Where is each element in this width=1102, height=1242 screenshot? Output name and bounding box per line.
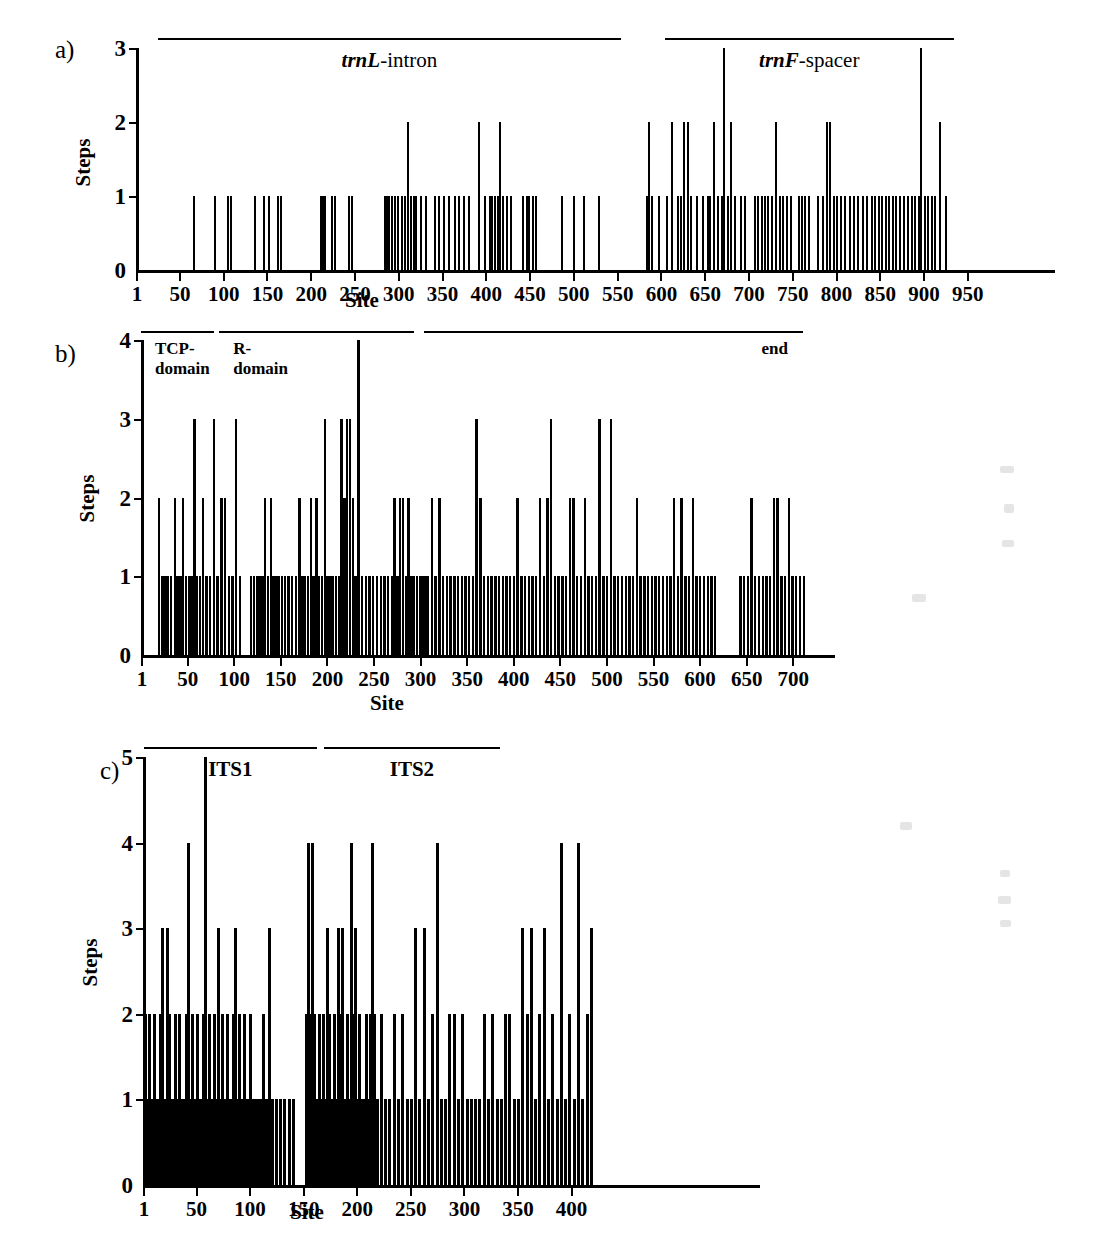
panel-b-x-tick-label: 300	[405, 667, 437, 692]
data-spike	[280, 196, 282, 270]
data-spike	[383, 576, 385, 655]
data-spike	[279, 1099, 282, 1185]
data-spike	[591, 576, 593, 655]
data-spike	[595, 576, 597, 655]
panel-c-x-tick-label: 1	[139, 1197, 150, 1222]
data-spike	[628, 576, 630, 655]
panel-b-x-tick-label: 100	[218, 667, 250, 692]
data-spike	[474, 1099, 477, 1185]
panel-b-y-tick-label: 1	[107, 564, 131, 590]
data-spike	[158, 498, 160, 656]
data-spike	[840, 196, 842, 270]
data-spike	[458, 196, 460, 270]
data-spike	[927, 196, 929, 270]
panel-b-y-tick-label: 4	[107, 328, 131, 354]
data-spike	[438, 498, 440, 656]
data-spike	[871, 196, 873, 270]
panel-a-y-tick-label: 0	[102, 258, 126, 284]
data-spike	[573, 196, 575, 270]
data-spike	[376, 1099, 379, 1185]
panel-c-x-tick	[143, 1188, 145, 1196]
data-spike	[710, 576, 712, 655]
data-spike	[213, 419, 215, 655]
panel-c-x-axis-line	[143, 1185, 760, 1188]
data-spike	[538, 1014, 541, 1185]
data-spike	[361, 576, 363, 655]
panel-b-x-tick	[187, 658, 189, 666]
data-spike	[478, 122, 480, 270]
data-spike	[539, 498, 541, 656]
scan-artifact	[1000, 920, 1011, 927]
data-spike	[504, 1014, 507, 1185]
data-spike	[791, 576, 793, 655]
panel-a-x-tick-label: 900	[908, 282, 940, 307]
data-spike	[613, 576, 615, 655]
data-spike	[617, 576, 619, 655]
data-spike	[734, 196, 736, 270]
data-spike	[709, 196, 711, 270]
data-spike	[522, 196, 524, 270]
panel-a-x-tick	[223, 273, 225, 281]
panel-c-region-rule	[144, 747, 317, 749]
panel-a-x-tick	[573, 273, 575, 281]
data-spike	[836, 196, 838, 270]
panel-b-region-rule	[141, 331, 214, 333]
data-spike	[520, 576, 522, 655]
data-spike	[703, 576, 705, 655]
data-spike	[434, 196, 436, 270]
data-spike	[443, 196, 445, 270]
data-spike	[292, 1099, 295, 1185]
data-spike	[368, 576, 370, 655]
data-spike	[610, 419, 612, 655]
data-spike	[680, 498, 682, 656]
data-spike	[776, 498, 778, 656]
data-spike	[673, 498, 675, 656]
data-spike	[602, 576, 604, 655]
data-spike	[606, 576, 608, 655]
data-spike	[448, 1014, 451, 1185]
data-spike	[551, 1014, 554, 1185]
panel-a-y-axis-label: Steps	[71, 128, 96, 198]
data-spike	[750, 498, 752, 656]
data-spike	[535, 576, 537, 655]
data-spike	[598, 419, 600, 655]
data-spike	[434, 576, 436, 655]
data-spike	[448, 196, 450, 270]
data-spike	[496, 1099, 499, 1185]
panel-c-y-tick-label: 5	[109, 745, 133, 771]
data-spike	[888, 196, 890, 270]
panel-b-x-tick-label: 450	[545, 667, 577, 692]
data-spike	[808, 196, 810, 270]
data-spike	[415, 196, 417, 270]
panel-b-x-axis-line	[141, 655, 835, 658]
data-spike	[170, 576, 172, 655]
data-spike	[874, 196, 876, 270]
data-spike	[695, 576, 697, 655]
data-spike	[500, 1099, 503, 1185]
data-spike	[357, 340, 359, 655]
data-spike	[470, 1099, 473, 1185]
data-spike	[557, 576, 559, 655]
data-spike	[425, 196, 427, 270]
data-spike	[214, 196, 216, 270]
panel-b: b) Steps Site 01234150100150200250300350…	[0, 318, 1102, 720]
data-spike	[688, 576, 690, 655]
data-spike	[216, 576, 218, 655]
data-spike	[384, 1099, 387, 1185]
data-spike	[775, 122, 777, 270]
panel-b-x-tick	[420, 658, 422, 666]
data-spike	[464, 576, 466, 655]
panel-a-x-tick	[485, 273, 487, 281]
panel-a-y-tick-label: 1	[102, 184, 126, 210]
panel-b-x-tick	[280, 658, 282, 666]
panel-c-y-tick-label: 2	[109, 1002, 133, 1028]
panel-c: c) Steps Site 01234515010015020025030035…	[0, 735, 1102, 1242]
panel-b-x-tick-label: 400	[498, 667, 530, 692]
panel-c-y-tick-label: 4	[109, 831, 133, 857]
data-spike	[723, 48, 725, 270]
panel-a-x-tick-label: 500	[558, 282, 590, 307]
data-spike	[911, 196, 913, 270]
data-spike	[550, 419, 552, 655]
data-spike	[461, 576, 463, 655]
data-spike	[666, 576, 668, 655]
